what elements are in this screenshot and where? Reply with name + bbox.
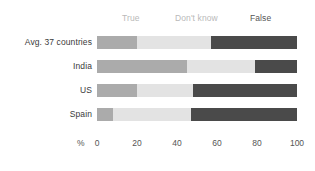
x-axis-tick: 80 xyxy=(252,138,261,148)
category-label-spain: Spain xyxy=(0,109,92,119)
x-axis-tick: 20 xyxy=(132,138,141,148)
bar-segment xyxy=(97,36,137,49)
bar-segment xyxy=(97,60,187,73)
bar-segment xyxy=(255,60,297,73)
bar-segment xyxy=(137,36,211,49)
axis-unit-label: % xyxy=(77,138,85,148)
x-axis: 020406080100 xyxy=(97,138,297,152)
table-row xyxy=(97,84,297,97)
x-axis-tick: 0 xyxy=(95,138,100,148)
table-row xyxy=(97,60,297,73)
bar-segment xyxy=(97,108,113,121)
chart-legend: True Don't know False xyxy=(97,13,297,27)
stacked-bar-chart: True Don't know False Avg. 37 countries … xyxy=(0,0,315,171)
x-axis-tick: 60 xyxy=(212,138,221,148)
bar-segment xyxy=(193,84,297,97)
category-label-india: India xyxy=(0,61,92,71)
category-label-avg-37-countries: Avg. 37 countries xyxy=(0,37,92,47)
category-label-us: US xyxy=(0,85,92,95)
x-axis-tick: 100 xyxy=(290,138,304,148)
x-axis-tick: 40 xyxy=(172,138,181,148)
legend-item-false: False xyxy=(250,13,271,23)
bar-segment xyxy=(211,36,297,49)
legend-item-dont-know: Don't know xyxy=(175,13,218,23)
bar-segment xyxy=(191,108,297,121)
bar-segment xyxy=(187,60,255,73)
legend-item-true: True xyxy=(122,13,140,23)
bar-segment xyxy=(97,84,137,97)
bar-segment xyxy=(137,84,193,97)
table-row xyxy=(97,108,297,121)
plot-area xyxy=(97,34,297,132)
table-row xyxy=(97,36,297,49)
bar-segment xyxy=(113,108,191,121)
